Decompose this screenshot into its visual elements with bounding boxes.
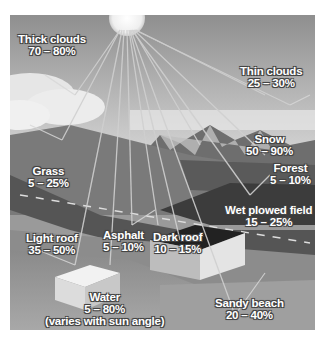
label-name: Forest — [270, 162, 311, 174]
label-name: Thick clouds — [18, 33, 86, 45]
label-dark-roof: Dark roof 10 – 15% — [153, 231, 202, 255]
label-name: Snow — [246, 133, 293, 145]
label-name: Dark roof — [153, 231, 202, 243]
label-forest: Forest 5 – 10% — [270, 162, 311, 186]
label-asphalt: Asphalt 5 – 10% — [103, 229, 144, 253]
label-light-roof: Light roof 35 – 50% — [26, 232, 78, 256]
label-range: 5 – 80% — [45, 303, 164, 315]
label-thick-clouds: Thick clouds 70 – 80% — [18, 33, 86, 57]
albedo-scene: Thick clouds 70 – 80% Thin clouds 25 – 3… — [10, 15, 315, 330]
label-name: Thin clouds — [240, 65, 302, 77]
label-wet-plowed-field: Wet plowed field 15 – 25% — [225, 204, 312, 228]
label-note: (varies with sun angle) — [45, 315, 164, 327]
label-sandy-beach: Sandy beach 20 – 40% — [215, 297, 284, 321]
label-name: Grass — [28, 165, 69, 177]
label-name: Asphalt — [103, 229, 144, 241]
label-range: 15 – 25% — [225, 216, 312, 228]
label-range: 50 – 90% — [246, 145, 293, 157]
label-range: 70 – 80% — [18, 45, 86, 57]
label-range: 20 – 40% — [215, 309, 284, 321]
label-range: 25 – 30% — [240, 77, 302, 89]
label-range: 5 – 25% — [28, 177, 69, 189]
label-name: Light roof — [26, 232, 78, 244]
label-snow: Snow 50 – 90% — [246, 133, 293, 157]
label-water: Water 5 – 80% (varies with sun angle) — [45, 291, 164, 327]
label-name: Sandy beach — [215, 297, 284, 309]
label-range: 35 – 50% — [26, 244, 78, 256]
label-range: 10 – 15% — [153, 243, 202, 255]
label-name: Wet plowed field — [225, 204, 312, 216]
label-name: Water — [45, 291, 164, 303]
label-thin-clouds: Thin clouds 25 – 30% — [240, 65, 302, 89]
label-grass: Grass 5 – 25% — [28, 165, 69, 189]
label-range: 5 – 10% — [270, 174, 311, 186]
label-range: 5 – 10% — [103, 241, 144, 253]
